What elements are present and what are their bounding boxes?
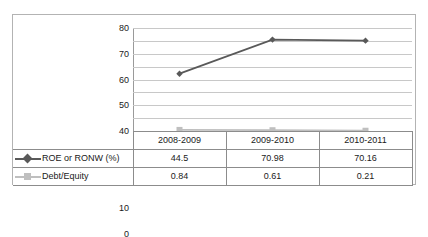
series-1 <box>176 36 368 76</box>
series-line <box>180 40 366 74</box>
chart-frame: 01020304050607080 2008-20092009-20102010… <box>12 14 416 185</box>
diamond-marker-icon <box>15 154 41 163</box>
data-table: 2008-20092009-20102010-2011ROE or RONW (… <box>13 131 413 186</box>
plot-series-svg <box>133 28 412 131</box>
data-point-marker <box>176 71 182 77</box>
table-cell-value: 0.61 <box>226 168 319 186</box>
x-axis-category-label: 2008-2009 <box>133 132 226 150</box>
table-cell-value: 0.84 <box>133 168 226 186</box>
table-cell-value: 70.16 <box>319 150 412 168</box>
x-axis-category-label: 2009-2010 <box>226 132 319 150</box>
table-row: ROE or RONW (%)44.570.9870.16 <box>13 150 412 168</box>
table-row: Debt/Equity0.840.610.21 <box>13 168 412 186</box>
legend-item-1: ROE or RONW (%) <box>13 150 133 168</box>
legend-marker <box>24 173 31 180</box>
y-axis-tick-label: 70 <box>119 49 129 58</box>
y-axis-tick-label: 60 <box>119 75 129 84</box>
plot-area: 01020304050607080 <box>133 28 412 131</box>
data-point-marker <box>362 37 368 43</box>
table-cell-value: 0.21 <box>319 168 412 186</box>
table-cell-value: 44.5 <box>133 150 226 168</box>
table-cell-value: 70.98 <box>226 150 319 168</box>
table-header-row: 2008-20092009-20102010-2011 <box>13 132 412 150</box>
square-marker-icon <box>15 172 41 181</box>
y-axis-tick-label: 80 <box>119 24 129 33</box>
legend-marker <box>23 154 33 164</box>
data-point-marker <box>269 36 275 42</box>
table-corner-cell <box>13 132 133 150</box>
legend-label: Debt/Equity <box>42 171 89 181</box>
y-axis-tick-label: 50 <box>119 101 129 110</box>
legend-label: ROE or RONW (%) <box>42 153 120 163</box>
x-axis-category-label: 2010-2011 <box>319 132 412 150</box>
legend-item-2: Debt/Equity <box>13 168 133 186</box>
